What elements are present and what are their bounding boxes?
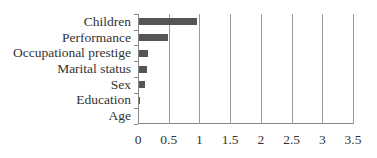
category-label: Age [109, 109, 132, 123]
category-label: Marital status [57, 62, 131, 76]
x-tick-label: 2 [257, 132, 264, 148]
gridline [261, 14, 262, 124]
y-tick [134, 45, 138, 46]
plot-area [138, 14, 353, 124]
x-tick-label: 0.5 [160, 132, 177, 148]
gridline [199, 14, 200, 124]
x-tick-label: 0 [135, 132, 142, 148]
category-label: Education [76, 93, 131, 107]
y-tick [134, 124, 138, 125]
gridline [353, 14, 354, 124]
x-tick-label: 3 [319, 132, 326, 148]
x-tick-label: 3.5 [345, 132, 362, 148]
bar [139, 34, 168, 41]
x-axis [138, 123, 353, 124]
bar [139, 81, 145, 88]
y-tick [134, 61, 138, 62]
category-label: Children [84, 15, 131, 29]
x-tick-label: 2.5 [283, 132, 300, 148]
category-label: Performance [62, 31, 131, 45]
gridline [292, 14, 293, 124]
bar [139, 18, 197, 25]
x-tick-label: 1.5 [222, 132, 239, 148]
gridline [322, 14, 323, 124]
bar [139, 50, 148, 57]
x-tick-label: 1 [196, 132, 203, 148]
y-tick [134, 14, 138, 15]
gridline [230, 14, 231, 124]
category-label: Sex [111, 78, 131, 92]
y-tick [134, 77, 138, 78]
bar [139, 66, 147, 73]
y-tick [134, 30, 138, 31]
bar [139, 97, 140, 104]
y-tick [134, 93, 138, 94]
gridline [169, 14, 170, 124]
category-label: Occupational prestige [13, 46, 131, 60]
y-tick [134, 108, 138, 109]
